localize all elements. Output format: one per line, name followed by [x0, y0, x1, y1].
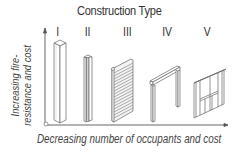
x-axis	[45, 124, 228, 127]
timber-frame-icon	[150, 66, 180, 122]
origin-marker	[44, 122, 48, 126]
y-axis	[44, 28, 47, 125]
masonry-wall-icon	[112, 59, 134, 122]
construction-type-diagram	[0, 0, 239, 152]
steel-column-icon	[84, 55, 92, 122]
wood-stud-wall-icon	[194, 69, 226, 118]
concrete-column-icon	[54, 40, 66, 123]
